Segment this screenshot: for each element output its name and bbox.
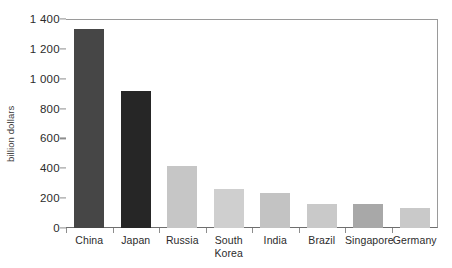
bar-slot	[214, 19, 244, 228]
x-tick-mark	[206, 228, 207, 233]
x-axis-label: China	[66, 234, 113, 247]
x-axis-label: Russia	[159, 234, 206, 247]
x-tick-mark	[113, 228, 114, 233]
x-tick-mark	[392, 228, 393, 233]
bar	[121, 91, 151, 228]
bar-chart: billion dollars 02004006008001 0001 2001…	[0, 0, 452, 268]
x-axis-label: Japan	[113, 234, 160, 247]
x-axis-label: Brazil	[299, 234, 346, 247]
y-tick-label: 600	[18, 132, 60, 144]
bar	[307, 204, 337, 228]
x-axis-label-line: India	[252, 234, 299, 247]
x-axis-label-line: South	[206, 234, 253, 247]
x-axis-label: SouthKorea	[206, 234, 253, 259]
x-tick-mark	[252, 228, 253, 233]
bar	[400, 208, 430, 228]
x-axis-label-line: Brazil	[299, 234, 346, 247]
bar-slot	[74, 19, 104, 228]
x-axis-label-line: Singapore	[345, 234, 392, 247]
x-tick-mark	[299, 228, 300, 233]
x-axis-label-line: Germany	[392, 234, 439, 247]
y-axis-title: billion dollars	[2, 84, 18, 184]
x-axis-labels: ChinaJapanRussiaSouthKoreaIndiaBrazilSin…	[66, 234, 438, 268]
y-tick-label: 1 000	[18, 73, 60, 85]
bar-slot	[121, 19, 151, 228]
y-tick-label: 1 400	[18, 13, 60, 25]
bar	[74, 29, 104, 228]
bar-slot	[167, 19, 197, 228]
x-axis-label: India	[252, 234, 299, 247]
bar-slot	[353, 19, 383, 228]
bar-series	[66, 19, 438, 228]
bar-slot	[307, 19, 337, 228]
y-tick-label: 800	[18, 103, 60, 115]
x-axis-label-line: Russia	[159, 234, 206, 247]
x-tick-mark	[159, 228, 160, 233]
x-tick-mark	[66, 228, 67, 233]
bar	[353, 204, 383, 228]
x-axis-label: Germany	[392, 234, 439, 247]
y-tick-label: 0	[18, 222, 60, 234]
bar	[260, 193, 290, 228]
x-axis-label: Singapore	[345, 234, 392, 247]
x-tick-mark	[345, 228, 346, 233]
bar	[214, 189, 244, 228]
y-tick-label: 200	[18, 192, 60, 204]
x-axis-label-line: Japan	[113, 234, 160, 247]
y-tick-label: 1 200	[18, 43, 60, 55]
bar-slot	[400, 19, 430, 228]
y-tick-label: 400	[18, 162, 60, 174]
x-axis-label-line: China	[66, 234, 113, 247]
bar-slot	[260, 19, 290, 228]
bar	[167, 166, 197, 228]
x-axis-label-line: Korea	[206, 247, 253, 260]
